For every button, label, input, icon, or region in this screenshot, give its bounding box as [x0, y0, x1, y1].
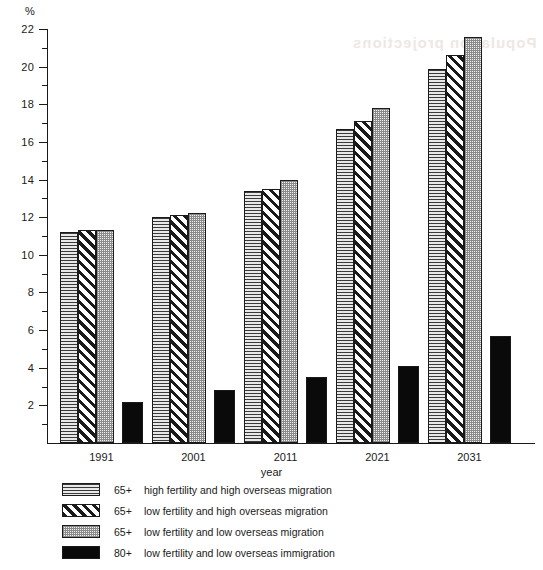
bar-chart: % 246810121416182022 1991200120112021203…: [0, 0, 543, 570]
bar: [78, 230, 96, 443]
y-axis-major-tick: [39, 405, 47, 406]
bar: [188, 213, 206, 443]
legend-swatch: [62, 504, 100, 517]
x-axis-title: year: [0, 466, 543, 478]
x-axis-tick-label: 2031: [430, 451, 510, 463]
x-axis-tick-label: 2021: [338, 451, 418, 463]
legend-swatch: [62, 546, 100, 559]
y-axis-major-tick: [39, 292, 47, 293]
bar: [280, 180, 298, 443]
bar: [336, 129, 354, 443]
legend-description: low fertility and high overseas migratio…: [144, 505, 328, 517]
y-axis-major-tick: [39, 29, 47, 30]
chart-legend: 65+high fertility and high overseas migr…: [62, 479, 492, 563]
bar: [170, 215, 188, 443]
bar-group: [244, 29, 327, 443]
y-axis-major-tick: [39, 67, 47, 68]
y-axis-major-tick: [39, 255, 47, 256]
legend-description: low fertility and low overseas immigrati…: [144, 547, 335, 559]
y-axis-tick-label: 14: [0, 175, 34, 186]
bar: [96, 230, 114, 443]
bar-group: [336, 29, 419, 443]
bar: [372, 108, 390, 443]
legend-swatch: [62, 525, 100, 538]
bar: [122, 402, 143, 443]
y-axis-tick-label: 20: [0, 62, 34, 73]
bar: [428, 69, 446, 443]
plot-area: [47, 29, 534, 443]
y-axis-major-tick: [39, 180, 47, 181]
legend-description: low fertility and low overseas migration: [144, 526, 324, 538]
bar: [152, 217, 170, 443]
bar: [490, 336, 511, 443]
x-axis-tick-label: 2001: [154, 451, 234, 463]
legend-item: 80+low fertility and low overseas immigr…: [62, 542, 492, 563]
y-axis-tick-label: 8: [0, 287, 34, 298]
bar-group: [152, 29, 235, 443]
y-axis-major-tick: [39, 330, 47, 331]
bar: [262, 189, 280, 443]
y-axis-tick-label: 10: [0, 250, 34, 261]
x-axis-tick-label: 1991: [62, 451, 142, 463]
y-axis-tick-label: 18: [0, 99, 34, 110]
y-axis-tick-label: 12: [0, 212, 34, 223]
bar: [354, 121, 372, 443]
legend-item: 65+high fertility and high overseas migr…: [62, 479, 492, 500]
bar-group: [428, 29, 511, 443]
y-axis-major-tick: [39, 217, 47, 218]
y-axis-major-tick: [39, 368, 47, 369]
legend-description: high fertility and high overseas migrati…: [144, 484, 332, 496]
bar: [244, 191, 262, 443]
legend-age-label: 65+: [114, 505, 144, 517]
y-axis-tick-label: 22: [0, 24, 34, 35]
bar: [464, 37, 482, 443]
y-axis-tick-label: 16: [0, 137, 34, 148]
legend-swatch: [62, 483, 100, 496]
bar: [398, 366, 419, 443]
y-axis-major-tick: [39, 142, 47, 143]
y-axis-unit-label: %: [25, 6, 35, 17]
legend-age-label: 65+: [114, 526, 144, 538]
y-axis-tick-label: 4: [0, 363, 34, 374]
bar-group: [60, 29, 143, 443]
y-axis-major-tick: [39, 104, 47, 105]
bar: [446, 55, 464, 443]
legend-item: 65+low fertility and low overseas migrat…: [62, 521, 492, 542]
y-axis-tick-label: 2: [0, 400, 34, 411]
legend-age-label: 65+: [114, 484, 144, 496]
y-axis-tick-label: 6: [0, 325, 34, 336]
bar: [60, 232, 78, 443]
x-axis-tick-label: 2011: [246, 451, 326, 463]
x-axis-line: [47, 443, 535, 444]
bar: [214, 390, 235, 443]
legend-age-label: 80+: [114, 547, 144, 559]
legend-item: 65+low fertility and high overseas migra…: [62, 500, 492, 521]
bar: [306, 377, 327, 443]
